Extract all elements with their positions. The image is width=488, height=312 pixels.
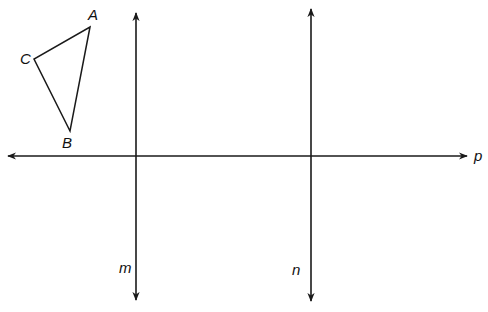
- geometry-diagram: mnpABC: [0, 0, 488, 312]
- line-m-label: m: [119, 259, 132, 276]
- vertex-a-label: A: [87, 6, 98, 23]
- lines-layer: [8, 9, 467, 301]
- line-n-label: n: [292, 261, 300, 278]
- vertex-b-label: B: [62, 134, 72, 151]
- line-p-label: p: [473, 147, 482, 164]
- triangle-shape: [34, 27, 90, 131]
- triangle-abc: [34, 27, 90, 131]
- vertex-c-label: C: [20, 50, 31, 67]
- labels-layer: mnpABC: [20, 6, 482, 278]
